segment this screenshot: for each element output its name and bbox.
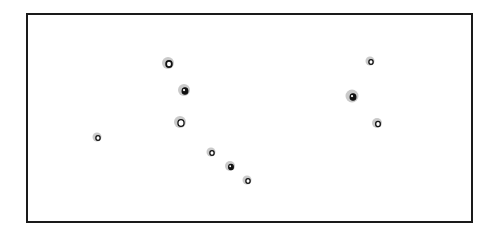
marker-icon [243, 176, 252, 185]
marker-ring [369, 60, 373, 65]
marker-ring [210, 151, 214, 156]
marker-icon [207, 148, 216, 157]
marker-ring [229, 164, 234, 169]
marker-icon [366, 57, 375, 66]
marker-layer [0, 0, 494, 232]
marker-icon [162, 57, 174, 69]
figure-canvas [0, 0, 494, 232]
marker-ring [182, 88, 188, 94]
marker-icon [225, 161, 235, 171]
marker-ring [376, 121, 381, 126]
marker-highlight [183, 89, 185, 91]
marker-ring [350, 94, 356, 100]
marker-icon [93, 133, 102, 142]
marker-icon [178, 84, 190, 96]
marker-icon [174, 116, 186, 128]
marker-icon [346, 90, 359, 103]
marker-highlight [229, 165, 231, 167]
marker-icon [372, 118, 382, 128]
marker-ring [166, 61, 172, 67]
marker-ring [246, 179, 250, 184]
marker-ring [96, 136, 100, 141]
marker-highlight [351, 95, 353, 97]
marker-ring [178, 120, 184, 127]
